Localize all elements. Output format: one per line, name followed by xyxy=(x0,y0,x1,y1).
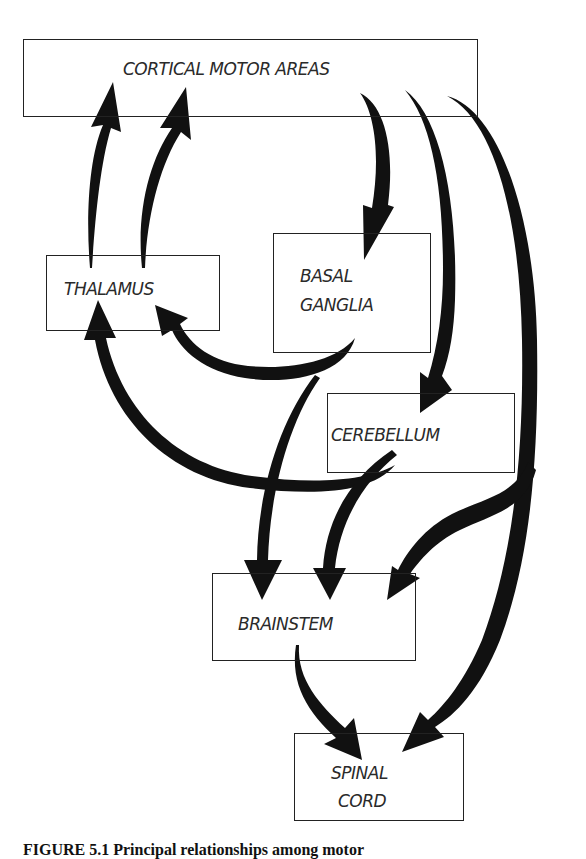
label-cortical-motor-areas: CORTICAL MOTOR AREAS xyxy=(123,58,329,81)
label-basal-ganglia-line2: GANGLIA xyxy=(300,294,373,317)
label-cerebellum: CEREBELLUM xyxy=(331,424,440,447)
figure-caption: FIGURE 5.1 Principal relationships among… xyxy=(23,841,364,859)
node-basal-ganglia xyxy=(273,233,431,353)
label-basal-ganglia-line1: BASAL xyxy=(300,265,353,288)
label-spinal-cord-line1: SPINAL xyxy=(331,762,388,785)
label-brainstem: BRAINSTEM xyxy=(238,613,333,636)
label-spinal-cord-line2: CORD xyxy=(338,790,386,813)
label-thalamus: THALAMUS xyxy=(64,278,154,301)
